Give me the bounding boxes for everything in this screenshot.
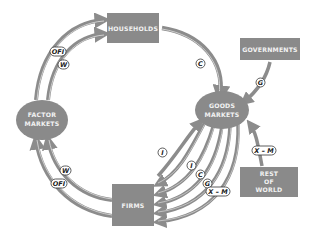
- svg-text:C: C: [198, 60, 203, 68]
- flow-label-ofi-top: OFI: [50, 47, 66, 56]
- node-governments: GOVERNMENTS: [240, 38, 300, 60]
- svg-text:OFI: OFI: [53, 180, 66, 188]
- svg-text:X – M: X – M: [207, 188, 228, 196]
- flow-label-xm-world: X – M: [252, 146, 276, 155]
- factor-markets-label-2: MARKETS: [25, 120, 60, 127]
- rest-of-world-label-2: OF: [264, 178, 274, 185]
- factor-markets-label-1: FACTOR: [28, 111, 56, 118]
- svg-text:C: C: [198, 171, 203, 179]
- governments-label: GOVERNMENTS: [242, 46, 298, 53]
- flow-label-c-top: C: [196, 59, 205, 68]
- arrow-world-to-goods: [250, 124, 262, 166]
- node-households: HOUSEHOLDS: [107, 13, 159, 43]
- households-label: HOUSEHOLDS: [108, 25, 158, 32]
- circular-flow-diagram: HOUSEHOLDS GOVERNMENTS FACTOR MARKETS GO…: [0, 0, 316, 236]
- node-factor-markets: FACTOR MARKETS: [16, 100, 68, 140]
- rest-of-world-label-3: WORLD: [256, 186, 283, 193]
- arrows-firms-to-factor: [36, 140, 112, 216]
- arrow-households-to-goods: [162, 28, 221, 96]
- node-goods-markets: GOODS MARKETS: [195, 91, 249, 129]
- flow-label-w-top: W: [58, 60, 69, 69]
- firms-label: FIRMS: [122, 202, 145, 209]
- flow-label-i-inner: I: [187, 161, 196, 170]
- rest-of-world-label-1: REST: [260, 170, 279, 177]
- arrows-factor-to-households: [36, 20, 104, 100]
- svg-text:W: W: [62, 167, 70, 175]
- svg-text:W: W: [60, 61, 68, 69]
- flow-label-i-outer: I: [158, 148, 167, 157]
- node-firms: FIRMS: [112, 184, 154, 226]
- svg-text:G: G: [258, 79, 264, 87]
- node-rest-of-world: REST OF WORLD: [240, 167, 298, 197]
- svg-text:X – M: X – M: [253, 147, 274, 155]
- flow-label-xm-bottom: X – M: [206, 187, 230, 196]
- flow-label-c-bottom: C: [196, 170, 205, 179]
- goods-markets-label-1: GOODS: [209, 102, 235, 109]
- flow-label-g-gov: G: [256, 78, 265, 87]
- flow-label-ofi-bottom: OFI: [51, 179, 67, 188]
- flow-label-w-bottom: W: [60, 166, 71, 175]
- svg-text:OFI: OFI: [52, 48, 65, 56]
- goods-markets-label-2: MARKETS: [205, 111, 240, 118]
